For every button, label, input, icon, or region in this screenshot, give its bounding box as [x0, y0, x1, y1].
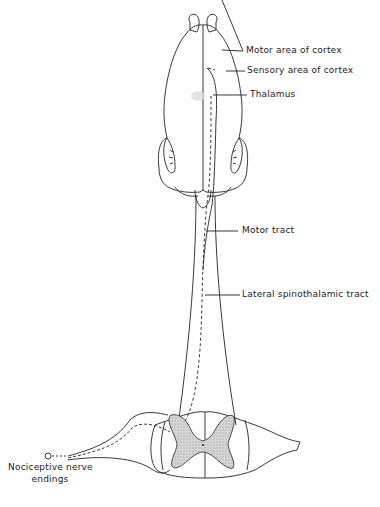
label-lateral-spinothalamic-tract: Lateral spinothalamic tract	[242, 289, 369, 299]
leader-lines	[205, 0, 247, 295]
label-motor-area: Motor area of cortex	[246, 45, 342, 55]
label-sensory-area: Sensory area of cortex	[247, 65, 353, 75]
label-motor-tract: Motor tract	[242, 225, 294, 235]
brain-outline	[158, 14, 247, 208]
nociceptive-ending-icon	[45, 453, 51, 459]
grey-matter-h	[169, 415, 234, 469]
spinothalamic-tract-line	[170, 68, 215, 428]
pain-pathway-diagram	[0, 0, 380, 507]
label-thalamus: Thalamus	[250, 89, 296, 99]
label-nociceptive-line1: Nociceptive nerve	[8, 462, 92, 472]
label-nociceptive-line2: endings	[8, 474, 92, 484]
central-canal	[202, 444, 204, 446]
thalamus-highlight	[191, 91, 205, 101]
